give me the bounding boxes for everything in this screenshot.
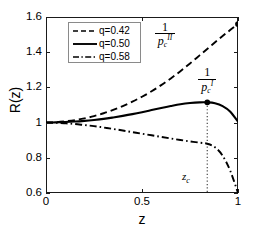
x-tick-mark [142, 17, 143, 21]
x-axis-label: z [46, 211, 238, 227]
annotation-one-over-pc-II: 1 pcII [147, 21, 183, 50]
y-tick-mark [46, 193, 50, 194]
y-tick-label: 1 [36, 117, 42, 129]
legend: q=0.42 q=0.50 q=0.58 [68, 22, 141, 63]
x-tick-mark [142, 189, 143, 193]
legend-entry: q=0.42 [69, 25, 140, 37]
series-line [46, 123, 238, 193]
y-tick-mark [234, 193, 238, 194]
legend-label: q=0.58 [99, 52, 130, 62]
series-line [46, 102, 238, 122]
fraction-numerator: 1 [198, 66, 216, 79]
x-tick-mark [238, 17, 239, 21]
y-tick-label: 0.8 [26, 152, 42, 164]
legend-swatch-dashdot [73, 52, 97, 62]
subscript-c: c [186, 176, 190, 185]
fraction-numerator: 1 [155, 21, 175, 34]
legend-label: q=0.42 [99, 26, 130, 36]
fraction-denominator: pcI [198, 79, 216, 95]
y-tick-label: 1.2 [26, 81, 42, 93]
y-tick-mark [46, 123, 50, 124]
y-tick-mark [46, 87, 50, 88]
x-tick-label: 1 [218, 196, 253, 208]
fraction-denominator: pcII [155, 33, 175, 49]
x-tick-mark [238, 189, 239, 193]
annotation-z-critical: zc [182, 170, 190, 185]
y-tick-mark [234, 123, 238, 124]
x-tick-label: 0.5 [122, 196, 162, 208]
legend-entry: q=0.58 [69, 51, 140, 63]
data-marker [204, 99, 210, 105]
y-tick-mark [234, 52, 238, 53]
x-tick-mark [46, 189, 47, 193]
y-tick-mark [46, 52, 50, 53]
y-tick-label: 1.6 [26, 11, 42, 23]
y-tick-mark [46, 158, 50, 159]
y-tick-mark [234, 87, 238, 88]
x-tick-label: 0 [26, 196, 66, 208]
legend-entry: q=0.50 [69, 38, 140, 50]
superscript-roman: I [211, 79, 214, 88]
legend-label: q=0.50 [99, 39, 130, 49]
y-axis-label: R(z) [7, 72, 23, 128]
annotation-one-over-pc-I: 1 pcI [189, 66, 225, 95]
superscript-roman: II [167, 33, 172, 42]
y-tick-mark [234, 158, 238, 159]
legend-swatch-solid [73, 39, 97, 49]
x-tick-mark [46, 17, 47, 21]
data-marker [235, 21, 238, 27]
figure: 1.6 1.4 1.2 1 0.8 0.6 0 0.5 1 R(z) z q=0… [0, 0, 253, 237]
y-tick-label: 1.4 [26, 46, 42, 58]
legend-swatch-dashed [73, 26, 97, 36]
